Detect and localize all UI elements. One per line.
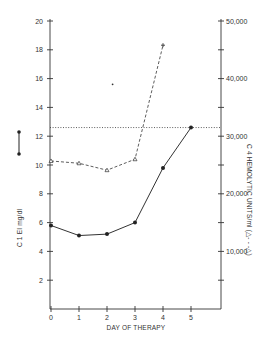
annotations [50,83,221,127]
c4-data-point [105,168,109,172]
x-tick-label: 1 [77,314,81,321]
right-tick-label: 30,000 [226,133,248,140]
c4-data-point [161,43,165,47]
left-legend-marker [17,130,21,156]
c1-data-point [105,232,109,236]
left-tick-label: 2 [39,277,43,284]
y-axis-right-title: C 4 HEMOLYTIC UNITS/ml (△- - -△) [245,144,253,256]
left-tick-label: 16 [35,75,43,82]
x-tick-label: 2 [105,314,109,321]
right-tick-label: 50,000 [226,18,248,25]
x-tick-label: 3 [133,314,137,321]
series [49,43,193,237]
x-axis-ticks: 012345 [49,306,193,321]
c4-data-point [133,157,137,161]
right-tick-label: 40,000 [226,75,248,82]
left-tick-label: 4 [39,248,43,255]
left-tick-label: 10 [35,162,43,169]
right-tick-label: 20,000 [226,190,248,197]
left-tick-label: 8 [39,190,43,197]
left-tick-label: 14 [35,104,43,111]
left-tick-label: 18 [35,46,43,53]
c1-solid-line [51,128,191,236]
x-tick-label: 4 [161,314,165,321]
chart: 2468101214161820 10,00020,00030,00040,00… [0,0,267,347]
axes [50,19,221,309]
left-tick-label: 12 [35,133,43,140]
right-axis-ticks: 10,00020,00030,00040,00050,000 [218,18,248,281]
stray-point [112,83,114,85]
c1-data-point [49,223,53,227]
c1-data-point [161,166,165,170]
c1-data-point [77,234,81,238]
c4-dashed-line [51,45,163,170]
c1-data-point [189,126,193,130]
x-axis-title: DAY OF THERAPY [107,324,166,331]
left-tick-label: 20 [35,18,43,25]
right-tick-label: 10,000 [226,248,248,255]
x-tick-label: 5 [189,314,193,321]
c4-data-point [77,161,81,165]
c1-data-point [133,221,137,225]
left-tick-label: 6 [39,219,43,226]
y-axis-left-title: C 1 EI mg/dl [16,209,24,248]
x-tick-label: 0 [49,314,53,321]
